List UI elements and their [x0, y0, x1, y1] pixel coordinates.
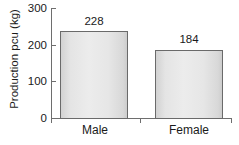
value-label-female: 184	[155, 34, 223, 46]
category-label-male: Male	[56, 124, 134, 136]
x-tick-mark-middle	[140, 119, 141, 123]
category-label-female: Female	[148, 124, 230, 136]
y-tick-mark-0	[52, 118, 56, 119]
y-tick-label-300: 300	[7, 3, 47, 15]
bar-chart-figure: Production pcu (kg) 300 200 100 0 228 18…	[0, 0, 239, 145]
y-tick-label-0: 0	[7, 113, 47, 125]
y-tick-label-100: 100	[7, 76, 47, 88]
figure-caption-fragment	[2, 138, 237, 145]
y-tick-mark-100	[52, 81, 56, 82]
bar-male	[60, 31, 128, 119]
y-axis-title: Production pcu (kg)	[8, 0, 20, 118]
y-axis-line	[51, 8, 52, 119]
y-tick-mark-200	[52, 45, 56, 46]
value-label-male: 228	[60, 16, 128, 28]
y-tick-mark-300	[52, 8, 56, 9]
bar-female	[155, 50, 223, 119]
x-tick-mark-right	[231, 119, 232, 123]
x-tick-mark-left	[51, 119, 52, 123]
y-tick-label-200: 200	[7, 40, 47, 52]
